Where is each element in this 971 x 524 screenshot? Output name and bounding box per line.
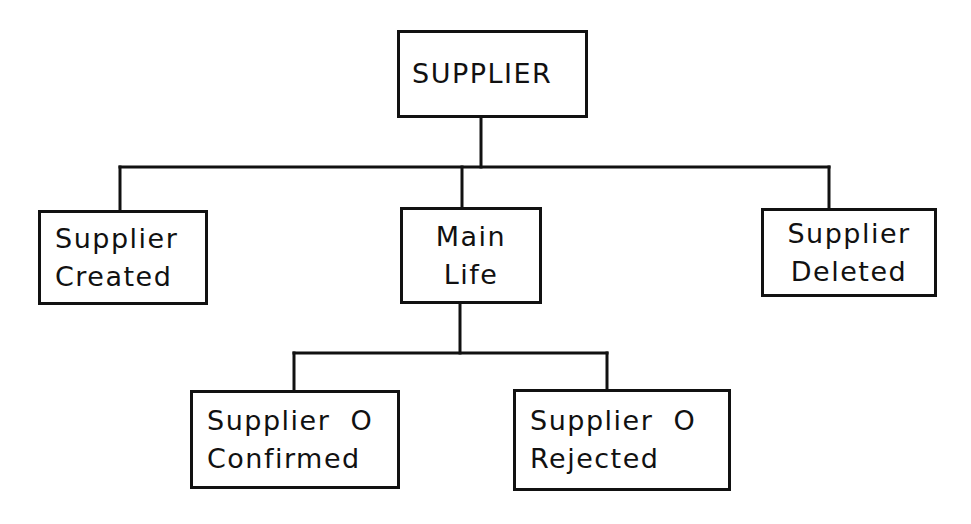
node-deleted-line-2: Deleted	[791, 253, 907, 291]
node-confirmed-line-2: Confirmed	[207, 440, 361, 478]
node-supplier-confirmed: Supplier O Confirmed	[190, 390, 400, 489]
node-mainlife-line-2: Life	[444, 256, 499, 294]
node-supplier-deleted: Supplier Deleted	[761, 208, 937, 297]
node-supplier-created: Supplier Created	[38, 210, 208, 305]
node-supplier-label: SUPPLIER	[412, 55, 552, 93]
node-rejected-line-1: Supplier O	[530, 402, 696, 440]
node-deleted-line-1: Supplier	[787, 215, 910, 253]
node-rejected-line-2: Rejected	[530, 440, 659, 478]
node-supplier-rejected: Supplier O Rejected	[513, 389, 731, 491]
node-created-line-2: Created	[55, 258, 172, 296]
node-main-life: Main Life	[400, 207, 542, 304]
node-confirmed-line-1: Supplier O	[207, 402, 373, 440]
diagram-canvas: SUPPLIER Supplier Created Main Life Supp…	[0, 0, 971, 524]
node-supplier: SUPPLIER	[397, 30, 588, 118]
node-mainlife-line-1: Main	[436, 218, 506, 256]
node-created-line-1: Supplier	[55, 220, 178, 258]
